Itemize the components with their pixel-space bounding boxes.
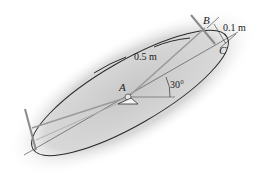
label-point-a: A xyxy=(119,82,126,93)
diagram-canvas: A B C 0.5 m 0.1 m 30° xyxy=(0,0,263,179)
label-point-c: C xyxy=(219,45,226,56)
label-point-b: B xyxy=(203,15,210,26)
label-offset-bc: 0.1 m xyxy=(223,23,246,33)
label-length-ac: 0.5 m xyxy=(134,52,157,62)
label-angle: 30° xyxy=(170,80,184,90)
